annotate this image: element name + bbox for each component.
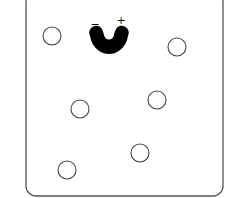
particle-circle [71, 100, 89, 118]
receptor-binding-site: − + [89, 14, 129, 54]
particle-circle [43, 27, 61, 45]
particle-circle [58, 161, 76, 179]
negative-charge-label: − [90, 18, 99, 31]
particle-circle [148, 91, 166, 109]
particle-circle [131, 144, 149, 162]
particle-circle [168, 38, 186, 56]
diagram-canvas: − + [0, 0, 235, 198]
positive-charge-label: + [116, 14, 125, 27]
